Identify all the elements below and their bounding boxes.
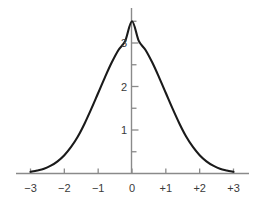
x-tick-label: +3 <box>227 183 240 194</box>
x-axis-ticks <box>31 169 234 174</box>
y-tick-label: 3 <box>113 38 127 49</box>
bell-curve-figure: −3−2−10+1+2+3 123 <box>0 0 264 203</box>
x-tick-label: −3 <box>24 183 37 194</box>
x-tick-label: 0 <box>129 183 135 194</box>
x-tick-label: +1 <box>160 183 173 194</box>
x-tick-label: −2 <box>58 183 71 194</box>
y-tick-label: 1 <box>113 125 127 136</box>
y-tick-label: 2 <box>113 81 127 92</box>
plot-area <box>0 0 264 203</box>
x-tick-label: +2 <box>193 183 206 194</box>
y-axis-ticks <box>132 43 139 130</box>
x-tick-label: −1 <box>92 183 105 194</box>
